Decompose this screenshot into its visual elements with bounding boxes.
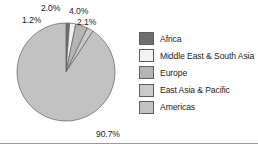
pie-label-east-asia-pacific: 2.1%	[77, 17, 96, 27]
pie-label-middle-east-south-asia: 2.0%	[41, 3, 60, 13]
legend-item-label: Americas	[160, 102, 195, 112]
legend-item[interactable]: East Asia & Pacific	[139, 82, 258, 99]
legend-item[interactable]: Africa	[139, 30, 258, 47]
figure-bottom-rule	[0, 143, 258, 144]
pie-chart-plot-area	[16, 22, 116, 122]
chart-legend: AfricaMiddle East & South AsiaEuropeEast…	[139, 30, 258, 116]
legend-item-label: East Asia & Pacific	[160, 85, 230, 95]
legend-swatch	[139, 32, 154, 45]
legend-swatch	[139, 84, 154, 97]
legend-item-label: Middle East & South Asia	[160, 51, 254, 61]
legend-item[interactable]: Middle East & South Asia	[139, 47, 258, 64]
legend-item[interactable]: Americas	[139, 99, 258, 116]
legend-item-label: Africa	[160, 34, 181, 44]
pie-label-americas: 90.7%	[96, 129, 120, 139]
pie-label-africa: 1.2%	[22, 15, 41, 25]
legend-swatch	[139, 66, 154, 79]
pie-chart-figure: 1.2% 2.0% 4.0% 2.1% 90.7% AfricaMiddle E…	[0, 0, 258, 144]
legend-swatch	[139, 101, 154, 114]
legend-swatch	[139, 49, 154, 62]
legend-item-label: Europe	[160, 68, 187, 78]
pie-slice	[17, 23, 115, 121]
legend-item[interactable]: Europe	[139, 64, 258, 81]
pie-label-europe: 4.0%	[69, 6, 88, 16]
pie-chart-svg	[16, 22, 116, 122]
pie-slice-group	[17, 23, 115, 121]
